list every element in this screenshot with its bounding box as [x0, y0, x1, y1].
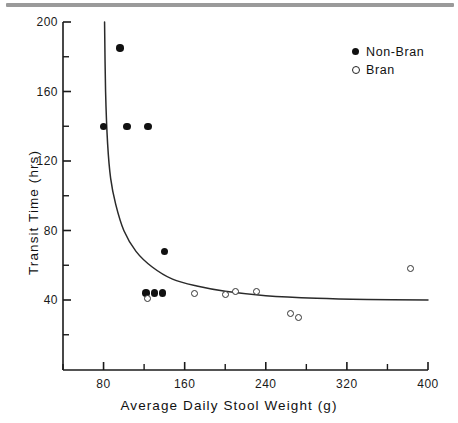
open-circle-icon: [352, 66, 366, 74]
data-point-non-bran: [159, 289, 167, 297]
legend: Non-Bran Bran: [352, 44, 424, 80]
scatter-plot: 4080120160200 80160240320400 Transit Tim…: [0, 0, 458, 423]
data-point-bran: [232, 288, 239, 295]
legend-label-non-bran: Non-Bran: [366, 45, 424, 59]
legend-label-bran: Bran: [366, 63, 395, 77]
x-tick-label: 160: [174, 378, 196, 390]
data-point-non-bran: [151, 289, 159, 297]
y-tick-label: 40: [20, 294, 58, 306]
chart-root: 4080120160200 80160240320400 Transit Tim…: [0, 0, 458, 423]
data-point-bran: [222, 291, 229, 298]
data-point-bran: [287, 310, 294, 317]
y-axis-title: Transit Time (hrs): [26, 150, 41, 275]
y-tick-label: 200: [20, 16, 58, 28]
filled-circle-icon: [352, 48, 366, 55]
data-point-bran: [191, 290, 198, 297]
x-tick-label: 240: [255, 378, 277, 390]
data-point-bran: [144, 295, 151, 302]
x-tick-label: 80: [96, 378, 110, 390]
data-point-non-bran: [144, 123, 152, 131]
x-tick-label: 320: [336, 378, 358, 390]
data-point-non-bran: [123, 123, 131, 131]
data-point-non-bran: [116, 44, 124, 52]
y-tick-label: 160: [20, 86, 58, 98]
data-point-bran: [295, 314, 302, 321]
data-point-bran: [253, 288, 260, 295]
legend-item-non-bran: Non-Bran: [352, 44, 424, 59]
x-tick-label: 400: [417, 378, 439, 390]
legend-item-bran: Bran: [352, 62, 424, 77]
x-axis-title: Average Daily Stool Weight (g): [0, 398, 458, 413]
